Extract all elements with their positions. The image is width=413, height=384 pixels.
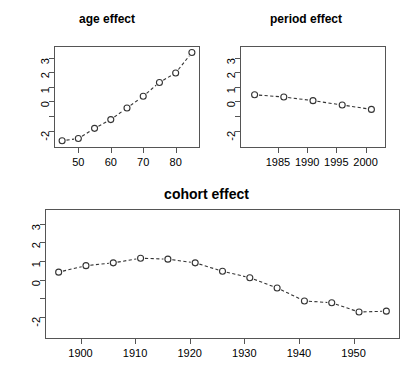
apc-effects-figure: age effect 3210-250607080 period effect …: [0, 0, 413, 384]
data-point-marker: [110, 260, 116, 266]
series-segment: [363, 311, 382, 312]
data-point-marker: [220, 268, 226, 274]
data-point-marker: [274, 285, 280, 291]
data-point-marker: [83, 263, 89, 269]
data-point-marker: [356, 309, 362, 315]
data-point-marker: [329, 300, 335, 306]
data-point-marker: [56, 269, 62, 275]
data-point-marker: [192, 260, 198, 266]
data-point-marker: [165, 256, 171, 262]
series-segment: [90, 263, 109, 265]
data-point-marker: [247, 275, 253, 281]
series-segment: [254, 279, 273, 286]
series-segment: [227, 272, 246, 276]
series-segment: [145, 258, 164, 259]
series-segment: [63, 267, 82, 271]
series-segment: [118, 259, 137, 262]
data-point-marker: [138, 255, 144, 261]
data-point-marker: [383, 308, 389, 314]
series-segment: [336, 304, 355, 310]
cohort-effect-series: [0, 0, 413, 384]
series-segment: [172, 260, 191, 263]
series-segment: [281, 290, 300, 299]
series-segment: [309, 301, 328, 302]
data-point-marker: [301, 298, 307, 304]
panel-cohort-effect: cohort effect 3210-219001910192019301940…: [0, 0, 413, 384]
series-segment: [199, 264, 218, 270]
